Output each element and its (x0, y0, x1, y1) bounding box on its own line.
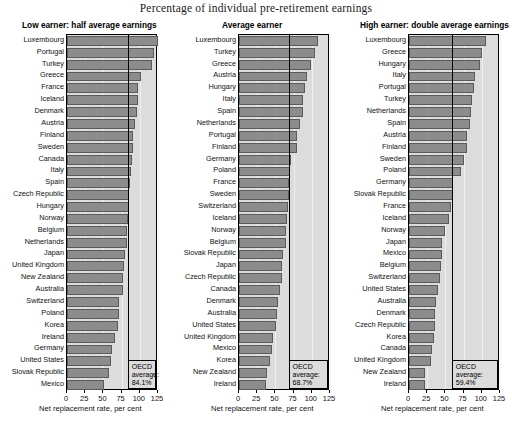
category-label: Sweden (342, 155, 406, 162)
category-label: Italy (0, 166, 64, 173)
bar (409, 273, 440, 283)
bar (67, 285, 123, 295)
axis-tick-label: 75 (284, 394, 302, 403)
category-label: Sweden (0, 143, 64, 150)
category-label: Finland (0, 131, 64, 138)
bar-row (409, 226, 498, 236)
category-label: Switzerland (342, 273, 406, 280)
category-label: Iceland (342, 214, 406, 221)
category-label: United Kingdom (172, 333, 236, 340)
category-label: Mexico (0, 380, 64, 387)
oecd-label-line1: OECD (132, 363, 153, 371)
axis-tick-label: 0 (229, 394, 247, 403)
bar (409, 380, 425, 390)
category-label: Spain (342, 119, 406, 126)
axis-tick (66, 390, 67, 393)
axis-tick-label: 50 (435, 394, 453, 403)
bar-row (409, 119, 498, 129)
axis-tick (84, 390, 85, 393)
category-label: Hungary (342, 60, 406, 67)
bar (67, 226, 127, 236)
bar-row (409, 83, 498, 93)
category-label: Norway (0, 214, 64, 221)
bar (409, 48, 482, 58)
category-label: Greece (0, 71, 64, 78)
bar (409, 214, 449, 224)
bar-row (239, 226, 328, 236)
bar-row (67, 119, 156, 129)
category-label: Switzerland (172, 202, 236, 209)
bar (239, 119, 300, 129)
category-label: Italy (342, 71, 406, 78)
category-label: France (172, 178, 236, 185)
bar (239, 83, 305, 93)
bar-row (239, 309, 328, 319)
axis-tick (481, 390, 482, 393)
category-label: Belgium (342, 261, 406, 268)
bar (67, 72, 141, 82)
bar (409, 368, 425, 378)
axis-tick-label: 0 (57, 394, 75, 403)
axis-tick-label: 125 (320, 394, 338, 403)
bar (67, 297, 119, 307)
plot-area (66, 34, 157, 390)
bar (239, 60, 311, 70)
category-label: Spain (172, 107, 236, 114)
page-title: Percentage of individual pre-retirement … (0, 2, 512, 14)
category-label: Austria (172, 71, 236, 78)
category-label: Finland (172, 143, 236, 150)
panel-average-earner: Average earner LuxembourgTurkeyGreeceAus… (172, 20, 344, 426)
axis-tick-label: 25 (75, 394, 93, 403)
bar-row (67, 190, 156, 200)
bar (409, 119, 470, 129)
bar (67, 261, 124, 271)
category-label: Luxembourg (0, 36, 64, 43)
bar (67, 214, 128, 224)
bar (409, 83, 474, 93)
bar (409, 155, 464, 165)
bar (67, 321, 118, 331)
bar (239, 202, 288, 212)
category-label: Poland (342, 166, 406, 173)
axis-tick (426, 390, 427, 393)
oecd-average-value: 68.7% (293, 379, 325, 387)
bar (239, 273, 282, 283)
category-label: Czech Republic (0, 190, 64, 197)
category-label: Turkey (0, 60, 64, 67)
category-label: United States (0, 356, 64, 363)
bar-row (409, 285, 498, 295)
bar-row (409, 261, 498, 271)
bar (67, 119, 135, 129)
bar (239, 368, 267, 378)
bar (409, 297, 436, 307)
category-label: United States (172, 321, 236, 328)
oecd-label-line1: OECD (293, 363, 325, 371)
gridline (330, 35, 331, 389)
bar-row (67, 261, 156, 271)
bar-row (409, 238, 498, 248)
category-label: Denmark (172, 297, 236, 304)
bar (67, 309, 119, 319)
bar-row (67, 83, 156, 93)
bar (67, 368, 109, 378)
bar-row (67, 345, 156, 355)
axis-tick-label: 125 (490, 394, 508, 403)
bar-row (239, 250, 328, 260)
bar (239, 72, 307, 82)
bar (409, 131, 467, 141)
category-label: Slovak Republic (172, 249, 236, 256)
bar (239, 321, 276, 331)
bar-row (239, 273, 328, 283)
oecd-average-box: OECDaverage:68.7% (289, 360, 328, 389)
bar-row (67, 143, 156, 153)
bar (409, 238, 442, 248)
oecd-average-box: OECDaverage:59.4% (452, 360, 498, 389)
category-label: Canada (0, 155, 64, 162)
gridline (158, 35, 159, 389)
bar (67, 107, 137, 117)
category-label: Finland (342, 143, 406, 150)
category-label: Austria (342, 131, 406, 138)
bar-row (67, 72, 156, 82)
bar-row (67, 107, 156, 117)
bar-row (67, 155, 156, 165)
